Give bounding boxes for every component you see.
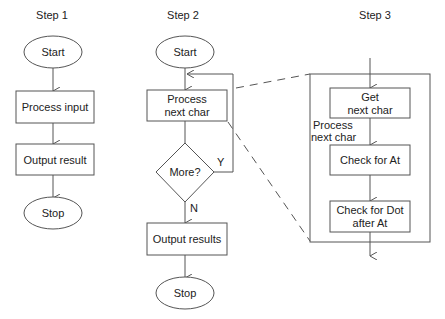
step-2-stop-label: Stop bbox=[174, 287, 197, 299]
step-3-check-at-label: Check for At bbox=[340, 154, 400, 166]
container-label-line1: Process bbox=[313, 119, 353, 131]
zoom-projection-line-top bbox=[236, 74, 310, 88]
step-3-get-label-line2: next char bbox=[347, 104, 393, 116]
step-3: Step 3 Get next char Process next char C… bbox=[310, 9, 430, 256]
zoom-projection-line-bottom bbox=[228, 122, 310, 241]
step-2-decision-label: More? bbox=[169, 166, 200, 178]
step-1-title: Step 1 bbox=[36, 9, 68, 21]
step-1-process-label: Process input bbox=[22, 101, 89, 113]
step-3-check-dot-label-line2: after At bbox=[353, 217, 388, 229]
step-2-output-label: Output results bbox=[153, 233, 222, 245]
step-2-process-label-line1: Process bbox=[167, 93, 207, 105]
step-3-title: Step 3 bbox=[359, 9, 391, 21]
step-1-stop-label: Stop bbox=[42, 207, 65, 219]
flowchart-diagram: Step 1 Start Process input Output result… bbox=[0, 0, 445, 319]
step-2-no-label: N bbox=[190, 202, 198, 214]
step-3-get-label-line1: Get bbox=[361, 91, 379, 103]
step-1-output-label: Output result bbox=[24, 154, 87, 166]
container-label-line2: next char bbox=[311, 131, 357, 143]
step-1: Step 1 Start Process input Output result… bbox=[16, 9, 94, 229]
step-2-yes-label: Y bbox=[217, 156, 225, 168]
step-1-start-label: Start bbox=[41, 46, 64, 58]
step-2-title: Step 2 bbox=[167, 9, 199, 21]
step-3-check-dot-label-line1: Check for Dot bbox=[336, 204, 403, 216]
step-2-start-label: Start bbox=[173, 46, 196, 58]
step-2-process-label-line2: next char bbox=[164, 106, 210, 118]
step-2: Step 2 Start Process next char More? Y N… bbox=[147, 9, 233, 309]
